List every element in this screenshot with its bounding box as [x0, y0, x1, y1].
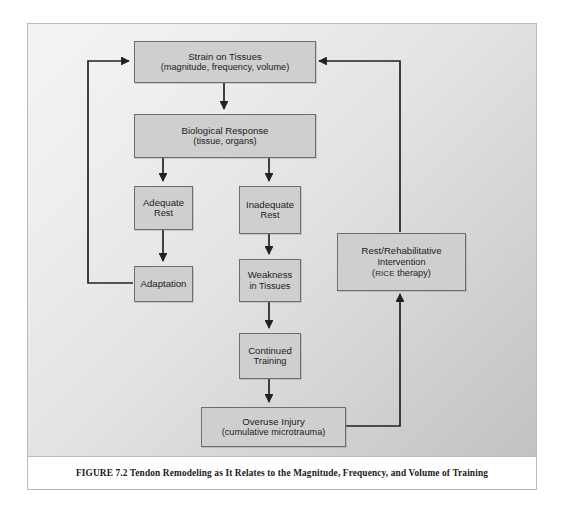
- node-strain-on-tissues[interactable]: Strain on Tissues (magnitude, frequency,…: [134, 41, 316, 83]
- node-continued-line1: Continued: [248, 345, 292, 357]
- node-adequate-line1: Adequate: [143, 197, 184, 209]
- node-weakness-line1: Weakness: [248, 269, 293, 281]
- node-adequate-rest[interactable]: Adequate Rest: [134, 186, 193, 230]
- node-inadequate-line1: Inadequate: [246, 199, 294, 211]
- node-rest-rehabilitative-intervention[interactable]: Rest/Rehabilitative Intervention (RICE t…: [337, 233, 466, 291]
- node-weakness-line2: in Tissues: [250, 281, 291, 292]
- node-adaptation[interactable]: Adaptation: [134, 266, 193, 302]
- edge-overuse-to-rest: [345, 294, 400, 426]
- node-inadequate-rest[interactable]: Inadequate Rest: [239, 186, 301, 234]
- edge-rest-to-strain: [319, 61, 400, 232]
- node-continued-training[interactable]: Continued Training: [239, 333, 301, 379]
- node-adequate-line2: Rest: [154, 208, 173, 219]
- node-biological-line1: Biological Response: [182, 125, 269, 137]
- node-overuse-line2: (cumulative microtrauma): [222, 427, 326, 438]
- figure-plate: Strain on Tissues (magnitude, frequency,…: [27, 23, 537, 457]
- node-weakness-in-tissues[interactable]: Weakness in Tissues: [239, 259, 301, 302]
- node-strain-line1: Strain on Tissues: [188, 51, 262, 63]
- node-inadequate-line2: Rest: [261, 210, 280, 221]
- figure-caption: FIGURE 7.2 Tendon Remodeling as It Relat…: [76, 468, 488, 478]
- figure-page: Strain on Tissues (magnitude, frequency,…: [0, 0, 566, 532]
- node-strain-line2: (magnitude, frequency, volume): [161, 62, 290, 73]
- figure-caption-band: FIGURE 7.2 Tendon Remodeling as It Relat…: [27, 457, 537, 490]
- node-rest-line3-acronym: RICE: [375, 269, 394, 278]
- node-biological-line2: (tissue, organs): [193, 136, 256, 147]
- node-overuse-injury[interactable]: Overuse Injury (cumulative microtrauma): [201, 407, 346, 447]
- node-rest-line3-suffix: therapy): [395, 268, 431, 278]
- node-rest-line1: Rest/Rehabilitative: [362, 245, 442, 257]
- node-rest-line2: Intervention: [377, 257, 425, 268]
- node-overuse-line1: Overuse Injury: [242, 416, 304, 428]
- edge-adaptation-to-strain: [88, 61, 133, 283]
- node-rest-line3: (RICE therapy): [372, 268, 431, 279]
- node-adaptation-line1: Adaptation: [141, 278, 187, 290]
- node-biological-response[interactable]: Biological Response (tissue, organs): [134, 114, 316, 158]
- node-continued-line2: Training: [254, 356, 287, 367]
